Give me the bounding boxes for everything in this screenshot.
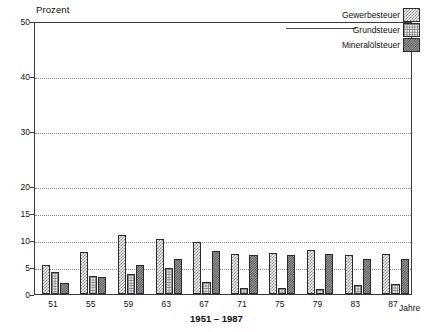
y-tick-mark-40 bbox=[30, 77, 34, 78]
bar-minerallsteuer-71 bbox=[249, 255, 257, 294]
bar-group-79 bbox=[307, 23, 334, 294]
bar-group-71 bbox=[231, 23, 258, 294]
y-tick-label-40: 40 bbox=[2, 72, 30, 82]
bar-gewerbesteuer-79 bbox=[307, 250, 315, 294]
x-tick-label-71: 71 bbox=[227, 299, 257, 309]
legend-leader-line bbox=[286, 28, 356, 29]
plot-area bbox=[34, 22, 412, 295]
bar-minerallsteuer-63 bbox=[174, 259, 182, 294]
x-tick-label-51: 51 bbox=[38, 299, 68, 309]
y-tick-mark-5 bbox=[30, 268, 34, 269]
bar-grundsteuer-79 bbox=[316, 289, 324, 294]
bar-gewerbesteuer-55 bbox=[80, 252, 88, 294]
y-tick-label-10: 10 bbox=[2, 236, 30, 246]
bar-gewerbesteuer-63 bbox=[156, 239, 164, 294]
bar-minerallsteuer-87 bbox=[401, 259, 409, 294]
y-tick-mark-30 bbox=[30, 132, 34, 133]
y-tick-mark-15 bbox=[30, 214, 34, 215]
legend-label-mineraloelsteuer: Mineralölsteuer bbox=[342, 40, 400, 50]
y-tick-mark-50 bbox=[30, 22, 34, 23]
y-tick-mark-10 bbox=[30, 241, 34, 242]
bar-series-layer bbox=[35, 23, 411, 294]
bar-grundsteuer-59 bbox=[127, 274, 135, 294]
bar-group-83 bbox=[345, 23, 372, 294]
legend: Gewerbesteuer Grundsteuer Mineralölsteue… bbox=[286, 8, 426, 54]
legend-swatch-grundsteuer bbox=[403, 23, 420, 37]
bar-grundsteuer-55 bbox=[89, 276, 97, 294]
x-axis-end-label: Jahre bbox=[399, 303, 420, 313]
legend-label-gewerbesteuer: Gewerbesteuer bbox=[342, 10, 400, 20]
y-axis-title: Prozent bbox=[36, 4, 69, 15]
x-tick-label-79: 79 bbox=[303, 299, 333, 309]
x-tick-label-55: 55 bbox=[76, 299, 106, 309]
legend-swatch-gewerbesteuer bbox=[403, 8, 420, 22]
x-tick-label-67: 67 bbox=[189, 299, 219, 309]
bar-minerallsteuer-75 bbox=[287, 255, 295, 294]
bar-grundsteuer-71 bbox=[240, 288, 248, 294]
bar-group-59 bbox=[118, 23, 145, 294]
bar-gewerbesteuer-59 bbox=[118, 235, 126, 294]
bar-gewerbesteuer-67 bbox=[193, 242, 201, 294]
legend-swatch-mineraloelsteuer bbox=[403, 38, 420, 52]
bar-gewerbesteuer-83 bbox=[345, 255, 353, 294]
bar-group-63 bbox=[156, 23, 183, 294]
x-tick-label-59: 59 bbox=[114, 299, 144, 309]
bar-grundsteuer-67 bbox=[202, 282, 210, 294]
bar-minerallsteuer-79 bbox=[325, 254, 333, 295]
legend-label-grundsteuer: Grundsteuer bbox=[353, 25, 400, 35]
y-tick-mark-20 bbox=[30, 187, 34, 188]
x-tick-label-63: 63 bbox=[151, 299, 181, 309]
bar-grundsteuer-63 bbox=[165, 268, 173, 294]
y-tick-label-15: 15 bbox=[2, 209, 30, 219]
y-tick-label-20: 20 bbox=[2, 182, 30, 192]
x-tick-label-83: 83 bbox=[340, 299, 370, 309]
bar-group-55 bbox=[80, 23, 107, 294]
bar-grundsteuer-51 bbox=[51, 272, 59, 294]
bar-grundsteuer-75 bbox=[278, 288, 286, 294]
bar-minerallsteuer-83 bbox=[363, 259, 371, 294]
bar-group-51 bbox=[42, 23, 69, 294]
x-tick-label-75: 75 bbox=[265, 299, 295, 309]
bar-minerallsteuer-67 bbox=[212, 251, 220, 294]
bar-group-87 bbox=[382, 23, 409, 294]
y-tick-mark-0 bbox=[30, 295, 34, 296]
bar-gewerbesteuer-87 bbox=[382, 254, 390, 295]
y-tick-label-5: 5 bbox=[2, 263, 30, 273]
y-tick-label-50: 50 bbox=[2, 17, 30, 27]
bar-minerallsteuer-51 bbox=[60, 283, 68, 294]
bar-gewerbesteuer-71 bbox=[231, 254, 239, 295]
bar-group-75 bbox=[269, 23, 296, 294]
bar-gewerbesteuer-75 bbox=[269, 253, 277, 294]
x-axis-title: 1951 – 1987 bbox=[0, 313, 433, 324]
bar-minerallsteuer-59 bbox=[136, 265, 144, 294]
bar-group-67 bbox=[193, 23, 220, 294]
bar-minerallsteuer-55 bbox=[98, 277, 106, 294]
chart-root: Prozent 05101520304050 51555963677175798… bbox=[0, 0, 433, 332]
y-tick-label-30: 30 bbox=[2, 127, 30, 137]
y-tick-label-0: 0 bbox=[2, 290, 30, 300]
bar-grundsteuer-87 bbox=[391, 284, 399, 294]
bar-grundsteuer-83 bbox=[354, 285, 362, 294]
bar-gewerbesteuer-51 bbox=[42, 265, 50, 294]
